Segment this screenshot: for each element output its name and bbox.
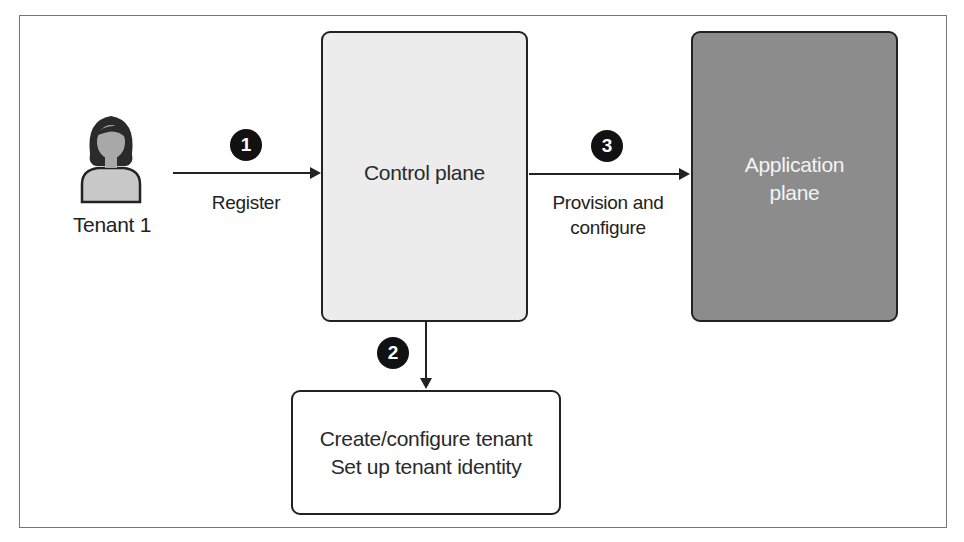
provision-label: Provision and configure <box>530 190 686 240</box>
register-label: Register <box>196 190 296 215</box>
register-arrow-line <box>173 172 311 174</box>
provision-arrowhead <box>679 168 690 180</box>
tenant-setup-label-line1: Create/configure tenant <box>320 425 533 453</box>
step-2-badge: 2 <box>377 337 409 369</box>
application-plane-box: Application plane <box>691 31 898 322</box>
tenant-label: Tenant 1 <box>60 213 164 237</box>
application-plane-label: Application plane <box>745 151 844 207</box>
setup-arrowhead <box>420 378 432 389</box>
application-plane-label-line1: Application <box>745 151 844 179</box>
setup-arrow-line <box>425 322 427 380</box>
person-icon <box>78 112 144 204</box>
step-3-badge: 3 <box>591 130 623 162</box>
register-arrowhead <box>310 167 321 179</box>
provision-label-line1: Provision and <box>530 190 686 215</box>
tenant-setup-box: Create/configure tenant Set up tenant id… <box>291 390 561 515</box>
control-plane-label: Control plane <box>364 161 485 185</box>
provision-label-line2: configure <box>530 215 686 240</box>
tenant-setup-label-line2: Set up tenant identity <box>320 453 533 481</box>
tenant-setup-label: Create/configure tenant Set up tenant id… <box>320 425 533 481</box>
control-plane-box: Control plane <box>321 31 528 322</box>
provision-arrow-line <box>529 173 679 175</box>
application-plane-label-line2: plane <box>745 179 844 207</box>
step-1-badge: 1 <box>230 129 262 161</box>
